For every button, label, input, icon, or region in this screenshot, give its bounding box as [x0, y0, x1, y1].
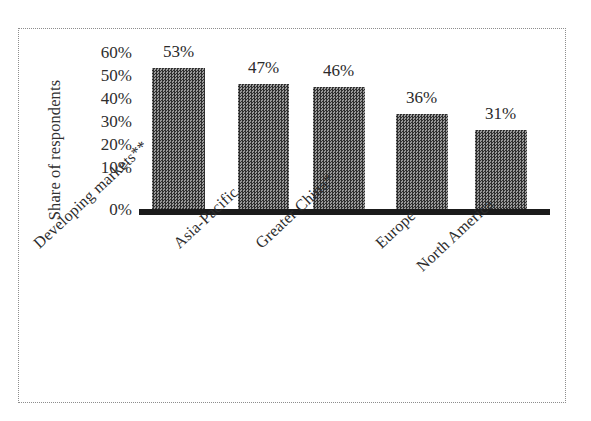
- bar-europe[interactable]: [396, 114, 448, 209]
- bar-value-greater-china: 46%: [307, 62, 370, 79]
- bar-value-developing-markets: 53%: [147, 43, 210, 60]
- bar-value-north-america: 31%: [469, 105, 532, 122]
- chart-plot-area: Share of respondents 60% 50% 40% 30% 20%…: [0, 0, 591, 421]
- bar-value-europe: 36%: [390, 89, 453, 106]
- bar-developing-markets[interactable]: [152, 68, 205, 209]
- bar-value-asia-pacific: 47%: [232, 59, 295, 76]
- bar-asia-pacific[interactable]: [238, 84, 289, 209]
